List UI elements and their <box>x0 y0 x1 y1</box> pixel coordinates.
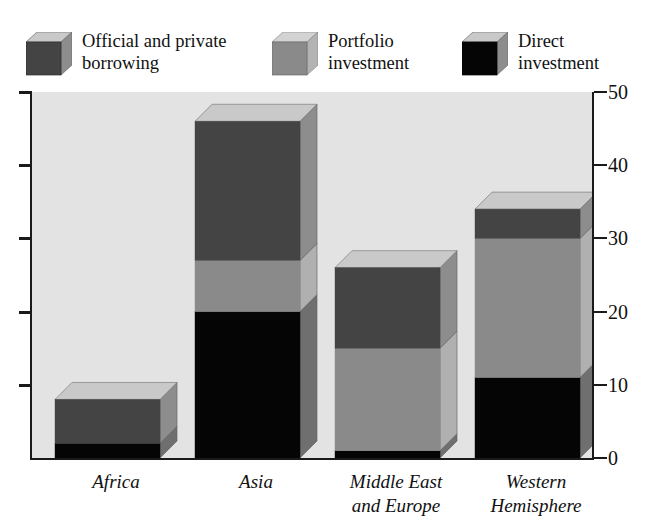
y-tick-left <box>19 237 32 240</box>
bar-segment-front <box>475 238 580 377</box>
y-axis-line-right <box>592 92 594 460</box>
legend-label-official-private-borrowing: Official and private borrowing <box>82 30 227 74</box>
y-tick-left <box>19 91 32 94</box>
bar-segment-front <box>335 451 440 458</box>
y-tick-left <box>19 311 32 314</box>
chart-legend: Official and private borrowing Portfolio… <box>0 30 660 86</box>
bar-segment-front <box>55 399 160 443</box>
y-tick-label: 40 <box>608 154 628 177</box>
y-tick-right <box>594 237 607 239</box>
bar-western-hemisphere <box>475 192 592 458</box>
x-axis-label-4: Western Hemisphere <box>446 470 626 518</box>
legend-cube-direct-investment <box>462 32 508 76</box>
bar-top-face <box>55 382 177 399</box>
bar-segment-side <box>580 221 592 377</box>
bar-africa <box>55 382 177 458</box>
bar-segment-side <box>300 295 317 458</box>
bar-top-face <box>335 251 457 268</box>
x-axis-line <box>30 458 594 460</box>
bar-middle-east-and-europe <box>335 251 457 458</box>
y-tick-right <box>594 164 607 166</box>
bar-segment-front <box>475 377 580 458</box>
bar-segment-front <box>335 268 440 349</box>
legend-cube-portfolio-investment <box>272 32 318 76</box>
top-caption <box>0 0 660 14</box>
legend-label-portfolio-investment: Portfolio investment <box>328 30 409 74</box>
y-tick-right <box>594 91 607 93</box>
y-tick-label: 30 <box>608 227 628 250</box>
y-tick-label: 0 <box>608 447 618 470</box>
bar-segment-front <box>55 443 160 458</box>
chart-container: Official and private borrowing Portfolio… <box>0 0 660 528</box>
bar-top-face <box>475 192 592 209</box>
bar-segment-front <box>195 260 300 311</box>
bar-segment-side <box>300 104 317 260</box>
y-tick-right <box>594 384 607 386</box>
legend-label-direct-investment: Direct investment <box>518 30 599 74</box>
bars-layer <box>30 92 592 458</box>
bar-segment-front <box>195 312 300 458</box>
bar-segment-front <box>335 348 440 450</box>
y-tick-right <box>594 457 607 459</box>
bar-segment-front <box>475 209 580 238</box>
y-tick-left <box>19 384 32 387</box>
bar-segment-front <box>195 121 300 260</box>
legend-item-portfolio-investment: Portfolio investment <box>272 30 452 86</box>
y-tick-left <box>19 164 32 167</box>
y-tick-label: 50 <box>608 81 628 104</box>
y-tick-right <box>594 311 607 313</box>
bar-top-face <box>195 104 317 121</box>
legend-item-official-private-borrowing: Official and private borrowing <box>26 30 256 86</box>
bar-segment-side <box>440 331 457 450</box>
legend-item-direct-investment: Direct investment <box>462 30 652 86</box>
legend-cube-official-private-borrowing <box>26 32 72 76</box>
bar-asia <box>195 104 317 458</box>
y-tick-label: 20 <box>608 300 628 323</box>
y-axis-line <box>30 92 32 460</box>
plot-area <box>30 92 592 458</box>
y-tick-label: 10 <box>608 373 628 396</box>
